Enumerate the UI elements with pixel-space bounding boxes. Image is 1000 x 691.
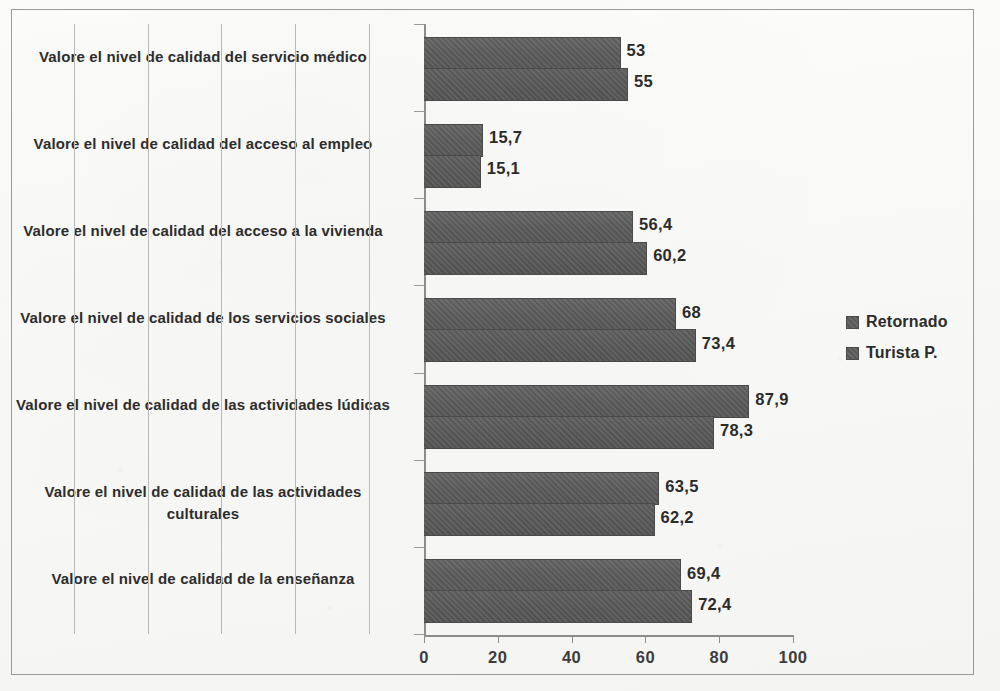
bar-value-label: 15,7: [489, 128, 522, 147]
bar-value-label: 53: [627, 41, 646, 60]
bar-value-label: 78,3: [720, 421, 753, 440]
category-axis-line: [424, 635, 794, 637]
value-tick-mark: [498, 635, 499, 643]
category-label: Valore el nivel de calidad de las activi…: [8, 394, 398, 416]
bar-turista-p: [424, 416, 714, 449]
chart-page: Valore el nivel de calidad del servicio …: [0, 0, 1000, 691]
gridline: [295, 24, 296, 634]
bar-value-label: 72,4: [698, 595, 731, 614]
category-label: Valore el nivel de calidad del acceso a …: [8, 220, 398, 242]
bar-value-label: 56,4: [639, 215, 672, 234]
legend-label: Retornado: [866, 313, 948, 331]
gridline: [74, 24, 75, 634]
bar-value-label: 63,5: [665, 477, 698, 496]
category-label: Valore el nivel de calidad de las activi…: [8, 481, 398, 525]
bar-turista-p: [424, 242, 647, 275]
bar-value-label: 60,2: [653, 246, 686, 265]
bar-turista-p: [424, 68, 628, 101]
bar-value-label: 15,1: [487, 159, 520, 178]
bar-retornado: [424, 124, 483, 157]
value-tick-mark: [793, 635, 794, 643]
value-tick-label: 60: [615, 648, 675, 667]
gridline: [221, 24, 222, 634]
category-label: Valore el nivel de calidad de la enseñan…: [8, 568, 398, 590]
bar-retornado: [424, 37, 621, 70]
bar-retornado: [424, 211, 633, 244]
value-tick-label: 100: [763, 648, 823, 667]
value-tick-label: 20: [468, 648, 528, 667]
legend-item[interactable]: Retornado: [846, 313, 991, 331]
category-label: Valore el nivel de calidad de los servic…: [8, 307, 398, 329]
legend-swatch-icon: [846, 316, 859, 329]
bar-retornado: [424, 559, 681, 592]
bar-value-label: 73,4: [702, 334, 735, 353]
gridline: [148, 24, 149, 634]
value-tick-mark: [424, 635, 425, 643]
bar-retornado: [424, 385, 749, 418]
bar-turista-p: [424, 590, 692, 623]
bar-value-label: 55: [634, 72, 653, 91]
bar-value-label: 62,2: [661, 508, 694, 527]
bar-retornado: [424, 472, 659, 505]
bar-turista-p: [424, 503, 655, 536]
legend-item[interactable]: Turista P.: [846, 344, 991, 362]
bar-value-label: 87,9: [755, 390, 788, 409]
value-tick-label: 40: [542, 648, 602, 667]
category-label: Valore el nivel de calidad del servicio …: [8, 46, 398, 68]
gridline: [369, 24, 370, 634]
bar-turista-p: [424, 155, 481, 188]
value-tick-mark: [572, 635, 573, 643]
value-tick-mark: [719, 635, 720, 643]
value-tick-label: 80: [689, 648, 749, 667]
category-label: Valore el nivel de calidad del acceso al…: [8, 133, 398, 155]
bar-value-label: 68: [682, 303, 701, 322]
legend-label: Turista P.: [866, 344, 938, 362]
value-tick-label: 0: [394, 648, 454, 667]
bar-retornado: [424, 298, 676, 331]
chart-legend: RetornadoTurista P.: [846, 313, 991, 375]
bar-turista-p: [424, 329, 696, 362]
bar-value-label: 69,4: [687, 564, 720, 583]
value-tick-mark: [645, 635, 646, 643]
legend-swatch-icon: [846, 347, 859, 360]
plot-area: [424, 24, 793, 634]
